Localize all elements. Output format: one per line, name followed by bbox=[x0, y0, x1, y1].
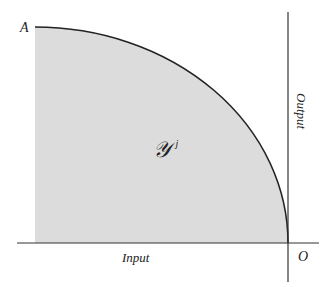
production-set-region bbox=[35, 27, 288, 243]
region-label: 𝒴 j bbox=[153, 137, 179, 162]
origin-label: O bbox=[298, 249, 308, 264]
point-a-label: A bbox=[19, 20, 29, 35]
x-axis-label: Input bbox=[121, 250, 150, 265]
diagram-canvas: A O Input Output 𝒴 j bbox=[0, 0, 334, 287]
region-symbol: 𝒴 bbox=[153, 137, 176, 162]
y-axis-label: Output bbox=[294, 93, 309, 130]
region-superscript: j bbox=[174, 138, 179, 149]
